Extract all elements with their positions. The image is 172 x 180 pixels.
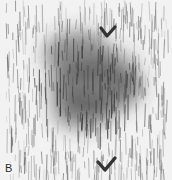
- lower-arrowhead-icon: [98, 158, 115, 170]
- upper-arrowhead-icon: [101, 27, 115, 36]
- panel-label: B: [4, 163, 13, 174]
- streak-texture: [0, 0, 172, 180]
- figure-panel: B: [0, 0, 172, 180]
